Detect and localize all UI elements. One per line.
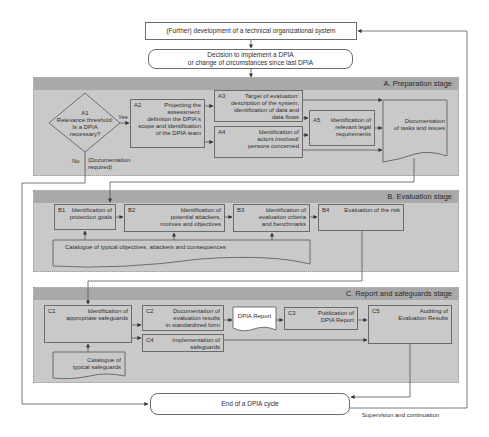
c2-line-3: in standardized form [166, 322, 220, 329]
a4-text: Identification of actors involved/ perso… [248, 129, 299, 150]
c1-id: C1 [48, 308, 56, 315]
a5-box: A5 Identification of relevant legal requ… [309, 110, 375, 146]
c1-text: Identification of appropriate safeguards [66, 308, 128, 322]
c2-id: C2 [146, 308, 154, 315]
b3-line-2: evaluation criteria [259, 214, 306, 221]
c5-line-1: Auditing of [398, 308, 448, 315]
b1-text: Identification of protection goals [70, 207, 112, 221]
a4-line-2: actors involved/ [248, 136, 299, 143]
c4-box: C4 Implementation of safeguards [142, 334, 224, 352]
b2-text: Identification of potential attackers, m… [160, 207, 221, 228]
c5-text: Auditing of Evaluation Results [398, 308, 448, 322]
c3-text: Publication of DPIA Report [318, 310, 354, 324]
b2-id: B2 [128, 207, 135, 214]
c4-line-1: Implementation of [172, 337, 220, 344]
c2-text: Documentation of evaluation results in s… [166, 308, 220, 329]
c2-box: C2 Documentation of evaluation results i… [142, 305, 224, 331]
catalogue-c-text: Catalogue of typical safeguards [55, 357, 121, 371]
decision-line-2: or change of circumstances since last DP… [188, 59, 313, 67]
a5-text: Identification of relevant legal require… [331, 117, 371, 138]
c3-line-1: Publication of [318, 310, 354, 317]
c1-box: C1 Identification of appropriate safegua… [44, 305, 132, 343]
c2-line-2: evaluation results [166, 315, 220, 322]
documentation-required-label: (Documentation required) [88, 157, 130, 171]
b3-line-1: Identification of [259, 207, 306, 214]
a2-line-1: Projecting the [138, 102, 201, 109]
documentation-text: Documentation of tasks and issues [385, 118, 445, 132]
b3-id: B3 [237, 207, 244, 214]
c2-line-1: Documentation of [166, 308, 220, 315]
b4-text: Evaluation of the risk [344, 207, 400, 214]
a3-id: A3 [218, 93, 225, 100]
a3-line-1: Target of evaluation: [231, 93, 299, 100]
b4-box: B4 Evaluation of the risk [318, 204, 404, 231]
c1-line-1: Identification of [66, 308, 128, 315]
b2-box: B2 Identification of potential attackers… [124, 204, 225, 232]
yes-label: Yes [118, 114, 128, 121]
c5-box: C5 Auditing of Evaluation Results [368, 305, 452, 344]
c3-box: C3 Publication of DPIA Report [284, 307, 358, 330]
doc-required-line-1: (Documentation [88, 157, 130, 164]
development-label: (Further) development of a technical org… [166, 27, 335, 35]
a1-line-2: Is a DPIA [72, 124, 97, 131]
a1-line-3: necessary? [70, 131, 101, 138]
a3-line-4: data flows [231, 114, 299, 121]
b2-line-1: Identification of [160, 207, 221, 214]
a1-line-1: Relevance threshold: [57, 117, 113, 124]
a3-box: A3 Target of evaluation: description of … [214, 90, 303, 122]
a2-line-2: assessment: [138, 109, 201, 116]
supervision-label: Supervision and continuation [362, 412, 439, 419]
a2-line-4: scope and identification [138, 123, 201, 130]
decision-box: Decision to implement a DPIA or change o… [148, 49, 353, 69]
c3-line-2: DPIA Report [318, 317, 354, 324]
doc-required-line-2: required) [88, 164, 130, 171]
a2-text: Projecting the assessment: definition th… [138, 102, 201, 137]
a5-line-3: requirements [331, 131, 371, 138]
a2-box: A2 Projecting the assessment: definition… [130, 99, 205, 148]
b1-line-2: protection goals [70, 214, 112, 221]
c5-id: C5 [372, 308, 380, 315]
a1-id: A1 [81, 110, 88, 117]
catalogue-c-line-1: Catalogue of [55, 357, 121, 364]
a3-line-2: description of the system, [231, 100, 299, 107]
b2-line-2: potential attackers, [160, 214, 221, 221]
no-label: No [72, 158, 80, 165]
a4-line-1: Identification of [248, 129, 299, 136]
a1-text: A1 Relevance threshold: Is a DPIA necess… [52, 108, 118, 140]
b3-text: Identification of evaluation criteria an… [259, 207, 306, 228]
c4-text: Implementation of safeguards [172, 337, 220, 351]
a2-line-3: definition the DPIA's [138, 116, 201, 123]
end-box: End of a DPIA cycle [150, 393, 350, 415]
a4-line-3: persons concerned [248, 143, 299, 150]
end-label: End of a DPIA cycle [221, 400, 278, 408]
a3-text: Target of evaluation: description of the… [231, 93, 299, 121]
c1-line-2: appropriate safeguards [66, 315, 128, 322]
development-box: (Further) development of a technical org… [145, 22, 357, 40]
a4-box: A4 Identification of actors involved/ pe… [214, 126, 303, 158]
decision-line-1: Decision to implement a DPIA [207, 51, 293, 59]
catalogue-c-line-2: typical safeguards [55, 364, 121, 371]
documentation-line-2: of tasks and issues [385, 125, 445, 132]
dpia-report-text: DPIA Report [233, 310, 276, 322]
b4-id: B4 [322, 207, 329, 214]
c4-line-2: safeguards [172, 344, 220, 351]
b2-line-3: motives and objectives [160, 221, 221, 228]
a2-line-5: of the DPIA team [138, 130, 201, 137]
a5-line-1: Identification of [331, 117, 371, 124]
a5-id: A5 [313, 117, 320, 124]
b1-line-1: Identification of [70, 207, 112, 214]
c3-id: C3 [288, 310, 296, 317]
a5-line-2: relevant legal [331, 124, 371, 131]
a4-id: A4 [218, 129, 225, 136]
catalogue-b-text: Catalogue of typical objectives, attacke… [65, 244, 226, 251]
documentation-line-1: Documentation [385, 118, 445, 125]
b3-box: B3 Identification of evaluation criteria… [233, 204, 310, 232]
b4-line-1: Evaluation of the risk [344, 207, 400, 214]
c5-line-2: Evaluation Results [398, 315, 448, 322]
b3-line-3: and benchmarks [259, 221, 306, 228]
b1-box: B1 Identification of protection goals [54, 204, 116, 230]
a3-line-3: identification of data and [231, 107, 299, 114]
c4-id: C4 [146, 337, 154, 344]
b1-id: B1 [58, 207, 65, 214]
